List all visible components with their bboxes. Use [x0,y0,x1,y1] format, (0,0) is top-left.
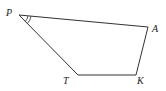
vertex-label-P: P [5,7,12,18]
angle-arc-inner-P [25,16,28,22]
vertex-label-K: K [136,75,145,86]
edge-PA [19,15,148,27]
edge-AK [136,27,148,75]
vertex-label-A: A [151,23,159,34]
vertex-label-T: T [63,75,70,86]
quadrilateral-diagram: P A K T [0,0,166,91]
edge-TP [19,15,78,75]
